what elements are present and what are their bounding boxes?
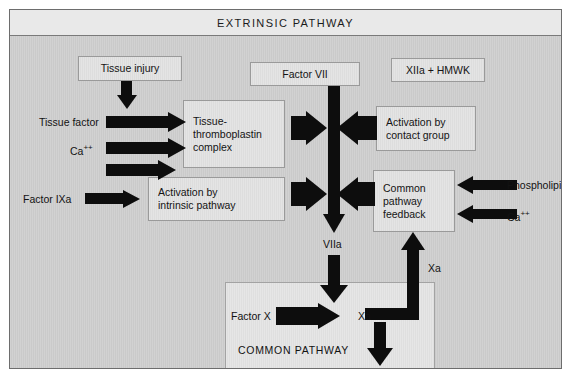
label-ca-left: Ca++ <box>70 142 93 157</box>
node-factor-vii-label: Factor VII <box>282 68 328 81</box>
page-title: EXTRINSIC PATHWAY <box>217 17 354 29</box>
node-tissue-thromboplastin-complex[interactable]: Tissue- thromboplastin complex <box>183 100 285 168</box>
label-xa-box: Xa <box>358 310 371 322</box>
node-contact-line1: Activation by <box>386 116 450 129</box>
figure-title-bar: EXTRINSIC PATHWAY <box>10 10 561 36</box>
arrow-xa-to-feedback <box>401 232 425 320</box>
arrow-factor-x-to-xa <box>276 307 342 325</box>
node-factor-vii[interactable]: Factor VII <box>250 62 360 86</box>
label-common-pathway: COMMON PATHWAY <box>238 344 349 356</box>
node-tissue-injury-label: Tissue injury <box>101 62 160 75</box>
node-feedback-line1: Common <box>383 182 426 195</box>
node-feedback-line2: pathway <box>383 195 426 208</box>
arrow-factor-vii-to-viia <box>323 86 345 234</box>
arrow-viia-to-common-pathway <box>320 255 348 303</box>
node-feedback-line3: feedback <box>383 208 426 221</box>
arrow-factor-ixa-to-intrinsic <box>85 193 143 204</box>
node-intrinsic-line1: Activation by <box>158 186 236 199</box>
node-contact-line2: contact group <box>386 129 450 142</box>
label-viia: VIIa <box>323 238 342 250</box>
label-ca-right: Ca++ <box>507 208 530 223</box>
label-factor-x: Factor X <box>231 310 271 322</box>
diagram-page: EXTRINSIC PATHWAY Tissue injury Factor V… <box>0 0 573 380</box>
diagram-canvas: Tissue injury Factor VII XIIa + HMWK Tis… <box>10 36 561 368</box>
arrow-xa-downstream <box>367 322 393 368</box>
node-ttc-line3: complex <box>193 141 262 154</box>
node-tissue-injury[interactable]: Tissue injury <box>78 56 182 81</box>
label-factor-ixa: Factor IXa <box>23 193 71 205</box>
node-xiia-hmwk[interactable]: XIIa + HMWK <box>391 58 485 82</box>
node-activation-intrinsic-pathway[interactable]: Activation by intrinsic pathway <box>148 177 285 221</box>
node-intrinsic-line2: intrinsic pathway <box>158 199 236 212</box>
arrow-tissue-factor-to-complex <box>106 116 190 128</box>
label-ca-right-text: Ca <box>507 211 520 223</box>
node-common-pathway-feedback[interactable]: Common pathway feedback <box>373 170 455 232</box>
arrow-calcium-to-complex <box>106 142 190 154</box>
node-xiia-hmwk-label: XIIa + HMWK <box>406 64 470 77</box>
label-tissue-factor: Tissue factor <box>39 116 99 128</box>
label-ca-left-text: Ca <box>70 145 83 157</box>
label-phospholipid: Phospholipid <box>507 179 561 191</box>
label-ca-right-sup: ++ <box>520 209 529 218</box>
node-activation-contact-group[interactable]: Activation by contact group <box>376 106 476 151</box>
arrow-tissue-injury-to-complex <box>121 81 132 111</box>
label-xa-feedback: Xa <box>428 262 441 274</box>
node-ttc-line2: thromboplastin <box>193 128 262 141</box>
node-ttc-line1: Tissue- <box>193 115 262 128</box>
arrow-unlabeled-to-complex <box>106 164 180 176</box>
label-ca-left-sup: ++ <box>83 143 92 152</box>
